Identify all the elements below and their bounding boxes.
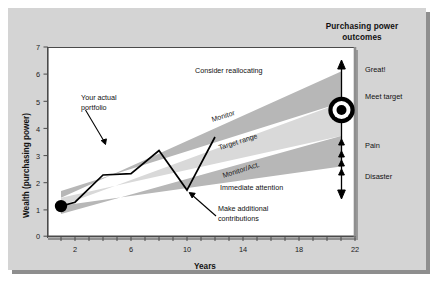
annotation-make-contributions-line1: Make additional (218, 204, 268, 213)
y-tick-6: 6 (26, 70, 40, 79)
annotation-make-contributions-line2: contributions (218, 214, 259, 223)
y-tick-2: 2 (26, 179, 40, 188)
annotation-your-portfolio-line1: Your actual (81, 93, 117, 102)
x-tick-14: 14 (233, 245, 253, 254)
annotation-make-contributions: Make additional contributions (218, 204, 268, 223)
figure-root: Purchasing power outcomes Wealth (purcha… (0, 0, 438, 304)
annotation-consider-reallocating: Consider reallocating (195, 66, 263, 76)
x-tick-2: 2 (65, 245, 85, 254)
outcome-label-meet-target: Meet target (365, 92, 402, 101)
x-tick-10: 10 (177, 245, 197, 254)
series-start-marker (55, 200, 67, 212)
y-tick-1: 1 (26, 206, 40, 215)
y-tick-7: 7 (26, 43, 40, 52)
annotation-your-portfolio-line2: portfolio (81, 103, 107, 112)
outcome-label-pain: Pain (365, 141, 380, 150)
x-tick-18: 18 (289, 245, 309, 254)
x-tick-22: 22 (345, 245, 365, 254)
x-tick-6: 6 (121, 245, 141, 254)
outcome-label-disaster: Disaster (365, 172, 392, 181)
annotation-your-portfolio: Your actual portfolio (81, 93, 117, 112)
chart-canvas (0, 0, 438, 304)
y-tick-0: 0 (26, 232, 40, 241)
outcome-label-great: Great! (365, 65, 386, 74)
y-tick-5: 5 (26, 98, 40, 107)
y-tick-4: 4 (26, 125, 40, 134)
y-tick-3: 3 (26, 152, 40, 161)
bullseye-target-icon (328, 97, 354, 123)
annotation-immediate-attention: Immediate attention (220, 183, 283, 193)
